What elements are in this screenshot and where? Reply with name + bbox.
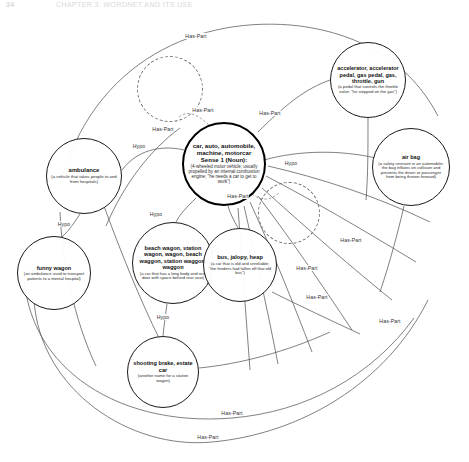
edge-label-hypo: Hypo	[57, 221, 71, 227]
node-accelerator[interactable]: accelerator, accelerator pedal, gas peda…	[330, 42, 406, 118]
node-air-bag-gloss: (a safety restraint in an automobile; th…	[373, 162, 449, 180]
node-beach-wagon-words: beach wagon, station wagon, wagon, beach…	[133, 245, 213, 270]
edge-airbag-stem	[380, 206, 404, 292]
edge-accelerator-stem	[366, 118, 368, 200]
node-shooting-brake-words: shooting brake, estate car	[128, 360, 198, 373]
edge-label-hypo: Hypo	[284, 160, 298, 166]
diagram-page: 34 CHAPTER 3. WORDNET AND ITS USE	[0, 0, 469, 462]
node-shooting-brake-gloss: (another name for a station wagon)	[128, 374, 198, 383]
edge-car-beachwagon	[176, 198, 196, 222]
edge-car-ambulance	[122, 148, 184, 170]
node-beach-wagon-gloss: (a car that has a long body and rear doo…	[133, 272, 213, 281]
node-air-bag[interactable]: air bag (a safety restraint in an automo…	[372, 128, 450, 206]
node-funny-wagon[interactable]: funny wagon (an ambulance used to transp…	[17, 236, 91, 310]
node-ambulance-words: ambulance	[66, 167, 103, 174]
edge-label-has-part: Has-Part	[185, 33, 207, 39]
edge-label-hypo: Hypo	[132, 143, 146, 149]
edge-label-has-part: Has-Part	[227, 193, 249, 199]
edge-label-has-part: Has-Part	[259, 110, 281, 116]
node-beach-wagon[interactable]: beach wagon, station wagon, wagon, beach…	[132, 222, 214, 304]
node-air-bag-words: air bag	[399, 154, 423, 160]
edge-label-hypo: Hypo	[149, 211, 163, 217]
node-funny-wagon-gloss: (an ambulance used to transport patients…	[18, 272, 90, 281]
node-ambulance[interactable]: ambulance (a vehicle that takes people t…	[46, 138, 122, 214]
edge-haspart-arc-bottom-2	[34, 300, 428, 443]
node-funny-wagon-words: funny wagon	[34, 265, 75, 271]
edge-label-has-part: Has-Part	[221, 410, 243, 416]
node-car-words: car, auto, automobile, machine, motorcar	[184, 143, 264, 157]
node-shooting-brake[interactable]: shooting brake, estate car (another name…	[127, 336, 199, 408]
edge-label-has-part: Has-Part	[296, 265, 318, 271]
edge-shootingbrake-right	[199, 332, 330, 368]
edge-beachwagon-shootingbrake	[163, 304, 167, 336]
node-car-sense: Sense 1 (Noun):	[198, 157, 250, 164]
node-ambulance-gloss: (a vehicle that takes people to and from…	[47, 175, 121, 184]
edge-label-has-part: Has-Part	[379, 318, 401, 324]
node-bus-jalopy-heap[interactable]: bus, jalopy, heap (a car that is old and…	[203, 228, 277, 302]
edge-label-has-part: Has-Part	[197, 434, 219, 440]
node-accelerator-gloss: (a pedal that controls the throttle valv…	[331, 85, 405, 94]
node-accelerator-words: accelerator, accelerator pedal, gas peda…	[331, 65, 405, 83]
node-bus-words: bus, jalopy, heap	[214, 254, 266, 260]
node-bus-gloss: (a car that is old and unreliable; "the …	[204, 262, 276, 276]
edge-car-accelerator	[258, 78, 336, 132]
node-car-gloss: (4-wheeled motor vehicle; usually propel…	[184, 165, 264, 185]
edge-car-airbag	[264, 152, 376, 160]
node-unlabeled-2[interactable]	[258, 182, 320, 244]
node-car-auto-automobile[interactable]: car, auto, automobile, machine, motorcar…	[182, 122, 266, 206]
edge-label-hypo: Hypo	[156, 314, 170, 320]
edge-label-has-part: Has-Part	[306, 294, 328, 300]
edge-label-has-part: Has-Part	[192, 107, 214, 113]
edge-label-has-part: Has-Part	[340, 237, 362, 243]
edge-car-bus	[228, 206, 238, 228]
edge-label-has-part: Has-Part	[152, 126, 174, 132]
